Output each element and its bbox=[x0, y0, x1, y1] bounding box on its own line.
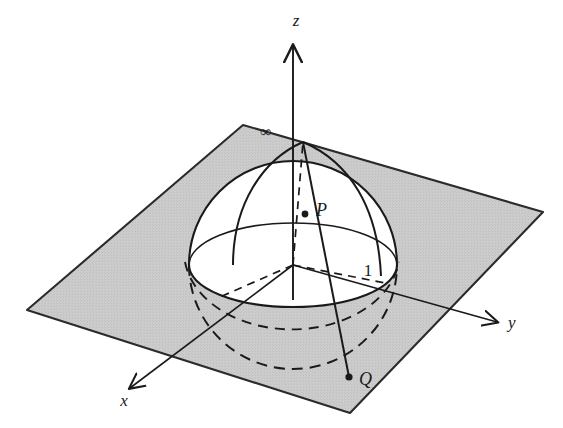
point-p-dot bbox=[302, 211, 309, 218]
unit-radius-label: 1 bbox=[364, 261, 373, 280]
point-p-label: P bbox=[315, 200, 327, 220]
diagram-canvas: z y x ∞ P Q 1 bbox=[0, 0, 563, 428]
infinity-label: ∞ bbox=[260, 123, 271, 140]
stereographic-projection-figure: z y x ∞ P Q 1 bbox=[0, 0, 563, 428]
y-axis-label: y bbox=[506, 313, 516, 332]
x-axis-label: x bbox=[119, 391, 128, 410]
z-axis-label: z bbox=[292, 11, 300, 30]
point-q-label: Q bbox=[359, 369, 372, 389]
point-q-dot bbox=[345, 373, 352, 380]
